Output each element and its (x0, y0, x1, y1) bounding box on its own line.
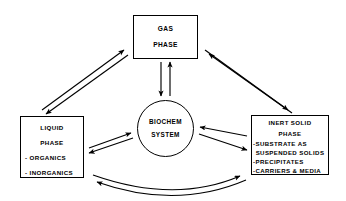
biochem-to-inert-solid-arrow (199, 134, 247, 150)
inert-solid-to-gas-arrow (209, 54, 292, 113)
inert-solid-phase-label-line1: INERT SOLID (269, 120, 312, 126)
inert-solid-to-biochem-arrow (200, 127, 247, 136)
inert-solid-phase-item-precipitates: -PRECIPITATES (252, 159, 304, 165)
gas-phase-label-line1: GAS (158, 26, 174, 33)
liquid-to-gas-arrow (42, 50, 124, 110)
liquid-phase-label-line1: LIQUID (40, 125, 63, 131)
biochem-system-label-line2: SYSTEM (151, 132, 180, 138)
gas-phase-label-line2: PHASE (153, 42, 178, 49)
gas-to-liquid-arrow (46, 55, 128, 114)
biochem-system-circle[interactable]: BIOCHEM SYSTEM (137, 100, 194, 157)
inert-solid-phase-item-substrate-cont: SUSPENDED SOLIDS (256, 150, 325, 156)
liquid-phase-item-organics: - ORGANICS (21, 155, 66, 161)
diagram-canvas: GAS PHASE LIQUID PHASE - ORGANICS - INOR… (0, 0, 346, 201)
gas-phase-box[interactable]: GAS PHASE (133, 15, 198, 59)
inert-solid-phase-item-carriers-media: -CARRIERS & MEDIA (252, 168, 321, 174)
biochem-system-label-line1: BIOCHEM (149, 119, 182, 125)
liquid-phase-item-inorganics: - INORGANICS (21, 170, 73, 176)
liquid-phase-box[interactable]: LIQUID PHASE - ORGANICS - INORGANICS (20, 116, 84, 178)
inert-solid-phase-label-line2: PHASE (279, 131, 302, 137)
liquid-phase-label-line2: PHASE (40, 140, 63, 146)
inert-solid-phase-box[interactable]: INERT SOLID PHASE -SUBSTRATE AS SUSPENDE… (251, 115, 329, 175)
inert-solid-phase-item-substrate: -SUBSTRATE AS (252, 141, 307, 147)
